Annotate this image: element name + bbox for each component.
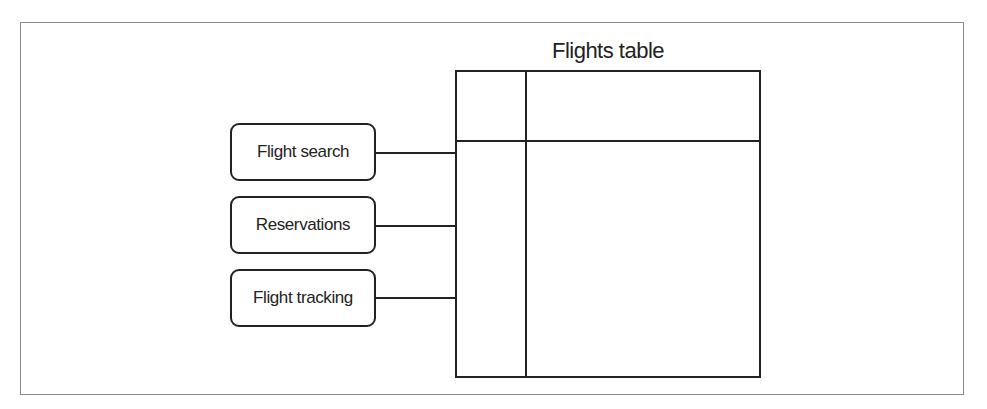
node-flight-tracking: Flight tracking (230, 269, 376, 327)
connector-flight-tracking (376, 297, 456, 299)
table-title: Flights table (455, 38, 761, 64)
node-label: Flight search (257, 142, 349, 162)
connector-flight-search (376, 152, 456, 154)
connector-reservations (376, 225, 456, 227)
table-header-divider (457, 140, 759, 142)
node-label: Flight tracking (253, 288, 353, 308)
node-flight-search: Flight search (230, 123, 376, 181)
flights-table (455, 70, 761, 378)
node-label: Reservations (256, 215, 350, 235)
table-column-divider (525, 72, 527, 376)
node-reservations: Reservations (230, 196, 376, 254)
